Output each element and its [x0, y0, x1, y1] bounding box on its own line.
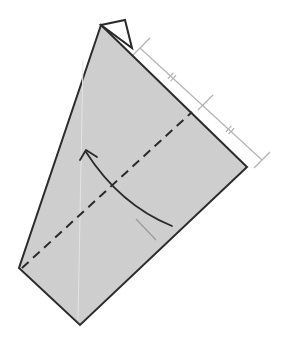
origami-diagram	[0, 0, 282, 356]
paper-texture	[19, 25, 247, 325]
measure-tick	[132, 38, 150, 56]
